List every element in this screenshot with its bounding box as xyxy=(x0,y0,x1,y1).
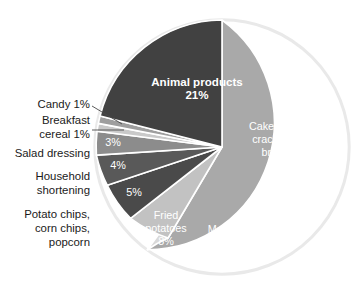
label-fried-potatoes-pct: 8% xyxy=(158,235,174,247)
label-potato-chips-line1: Potato chips, xyxy=(24,208,90,220)
label-household-shortening-line2: shortening xyxy=(37,184,90,196)
label-fried-potatoes-line1: Fried xyxy=(154,209,179,221)
pie-chart-figure: Animal products 21% Cakes, cookies, crac… xyxy=(0,0,364,293)
label-salad-dressing-pct: 3% xyxy=(105,136,121,148)
pie-outside-labels: Candy 1% Breakfast cereal 1% Salad dress… xyxy=(15,98,91,248)
label-potato-chips-line3: popcorn xyxy=(49,236,90,248)
label-margarine: Margarine xyxy=(208,223,257,235)
label-cakes-pct: 40% xyxy=(276,159,298,171)
label-fried-potatoes-line2: potatoes xyxy=(145,222,187,234)
label-animal-products-pct: 21% xyxy=(185,88,208,101)
label-breakfast-cereal-line1: Breakfast xyxy=(42,114,91,126)
label-household-shortening-pct: 4% xyxy=(110,159,126,171)
label-household-shortening-line1: Household xyxy=(36,170,90,182)
pie-slices xyxy=(96,20,274,250)
label-candy: Candy 1% xyxy=(37,98,90,110)
label-salad-dressing: Salad dressing xyxy=(15,147,90,159)
label-margarine-pct: 17% xyxy=(221,236,243,248)
label-animal-products: Animal products xyxy=(151,75,242,88)
label-cakes-line3: bread, etc. xyxy=(261,146,312,158)
label-potato-chips-pct: 5% xyxy=(126,186,142,198)
label-cakes-line2: crackers, pies, xyxy=(252,133,322,145)
label-breakfast-cereal-line2: cereal 1% xyxy=(39,128,90,140)
pie-chart-svg: Animal products 21% Cakes, cookies, crac… xyxy=(0,0,364,293)
label-potato-chips-line2: corn chips, xyxy=(35,222,90,234)
label-cakes-line1: Cakes, cookies, xyxy=(249,120,325,132)
